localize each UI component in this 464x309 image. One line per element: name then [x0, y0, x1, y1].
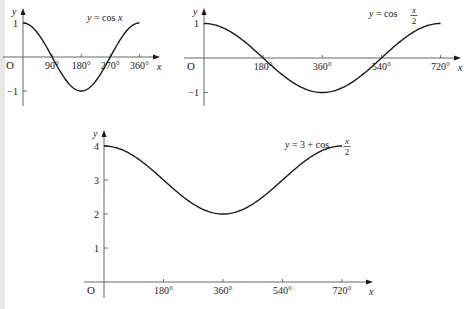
x-axis-label: x	[457, 62, 463, 73]
x-tick-label: 540°	[372, 61, 391, 72]
x-axis-arrow-icon	[366, 280, 373, 285]
y-tick-label: 1	[194, 18, 199, 29]
fraction-denominator: 2	[345, 147, 350, 157]
cosine-graphs-figure: yxO90°180°270°360°1−1y = cos x yxO180°36…	[0, 0, 464, 309]
y-tick-label: −1	[188, 87, 199, 98]
y-tick-label: 1	[94, 243, 99, 254]
x-axis-label: x	[368, 286, 374, 297]
x-axis-arrow-icon	[454, 56, 461, 61]
y-tick-label: 1	[13, 18, 18, 29]
y-axis-label: y	[192, 6, 198, 17]
x-tick-label: 360°	[214, 285, 233, 296]
plot-cos-x: yxO90°180°270°360°1−1y = cos x	[3, 6, 162, 106]
plot-cos-half-x: yxO180°360°540°720°1−1y = cos x2	[184, 5, 463, 106]
fraction-numerator: x	[344, 136, 349, 146]
fraction-numerator: x	[411, 5, 416, 15]
y-axis-label: y	[92, 128, 98, 139]
origin-label: O	[87, 284, 95, 296]
x-tick-label: 720°	[333, 285, 352, 296]
x-axis-arrow-icon	[153, 55, 160, 60]
y-axis-arrow-icon	[202, 8, 207, 15]
y-tick-label: −1	[7, 86, 18, 97]
y-tick-label: 3	[94, 175, 99, 186]
y-tick-label: 2	[94, 209, 99, 220]
x-tick-label: 360°	[130, 60, 149, 71]
y-axis-label: y	[11, 6, 17, 17]
y-axis-arrow-icon	[21, 8, 26, 15]
origin-label: O	[6, 59, 14, 71]
fraction-denominator: 2	[412, 16, 417, 26]
x-tick-label: 180°	[72, 60, 91, 71]
x-tick-label: 180°	[254, 61, 273, 72]
equation-label: y = cos x	[86, 12, 123, 23]
equation-label: y = cos	[368, 8, 398, 19]
curve-line	[104, 146, 342, 214]
y-axis-arrow-icon	[102, 130, 107, 137]
plot-3-plus-cos-half-x: yxO180°360°540°720°4321y = 3 + cos x2	[84, 128, 374, 298]
x-tick-label: 180°	[154, 285, 173, 296]
y-tick-label: 4	[94, 141, 99, 152]
origin-label: O	[187, 60, 195, 72]
x-tick-label: 360°	[313, 61, 332, 72]
equation-label: y = 3 + cos	[284, 139, 329, 150]
x-axis-label: x	[156, 61, 162, 72]
x-tick-label: 720°	[431, 61, 450, 72]
x-tick-label: 540°	[273, 285, 292, 296]
